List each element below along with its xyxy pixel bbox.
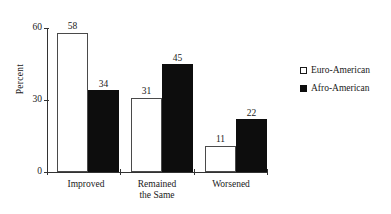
y-axis-tick-label-60: 60 xyxy=(33,23,43,33)
y-axis-title: Percent xyxy=(15,54,25,104)
legend: Euro-American Afro-American xyxy=(300,63,370,99)
y-axis-tick-label-30: 30 xyxy=(33,95,43,105)
y-axis-tick-label-0-wrap: 0 xyxy=(16,167,42,177)
open-square-swatch-icon xyxy=(300,67,307,74)
bar-value-afro-improved: 34 xyxy=(99,80,109,90)
legend-label-euro-american: Euro-American xyxy=(311,66,370,76)
filled-square-swatch-icon xyxy=(300,85,307,92)
bar-value-afro-remained-the-same: 45 xyxy=(173,54,183,64)
y-axis-tick-label-0: 0 xyxy=(37,167,42,177)
x-axis-category-label-worsened: Worsened xyxy=(198,179,264,190)
bar-value-euro-remained-the-same: 31 xyxy=(142,87,152,97)
bar-value-afro-worsened: 22 xyxy=(247,109,257,119)
plot-area: 58 34 31 45 11 22 xyxy=(47,28,267,172)
bar-afro-remained-the-same: 45 xyxy=(162,64,193,172)
bar-afro-improved: 34 xyxy=(88,90,119,172)
legend-item-afro-american: Afro-American xyxy=(300,81,370,96)
bar-euro-improved: 58 xyxy=(57,33,88,172)
bar-value-euro-worsened: 11 xyxy=(216,135,225,145)
bar-value-euro-improved: 58 xyxy=(68,22,78,32)
bar-euro-remained-the-same: 31 xyxy=(131,98,162,172)
bar-chart: 60 30 0 Percent 58 34 31 45 11 22 xyxy=(0,0,391,214)
y-axis-tick-label-60-wrap: 60 xyxy=(16,23,42,33)
bar-afro-worsened: 22 xyxy=(236,119,267,172)
x-axis-category-label-remained-the-same: Remained the Same xyxy=(124,179,190,201)
legend-item-euro-american: Euro-American xyxy=(300,63,370,78)
x-axis-line xyxy=(47,172,268,173)
bar-euro-worsened: 11 xyxy=(205,146,236,172)
x-axis-tick-3 xyxy=(267,169,268,175)
legend-label-afro-american: Afro-American xyxy=(311,84,370,94)
x-axis-category-label-improved: Improved xyxy=(53,179,119,190)
